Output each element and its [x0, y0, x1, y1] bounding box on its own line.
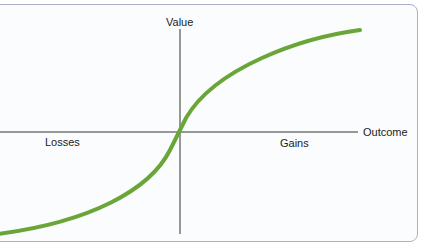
y-axis-label: Value [166, 16, 193, 28]
x-axis-label: Outcome [363, 126, 408, 138]
losses-label: Losses [45, 136, 80, 148]
gains-label: Gains [280, 137, 309, 149]
value-function-diagram [0, 0, 423, 248]
